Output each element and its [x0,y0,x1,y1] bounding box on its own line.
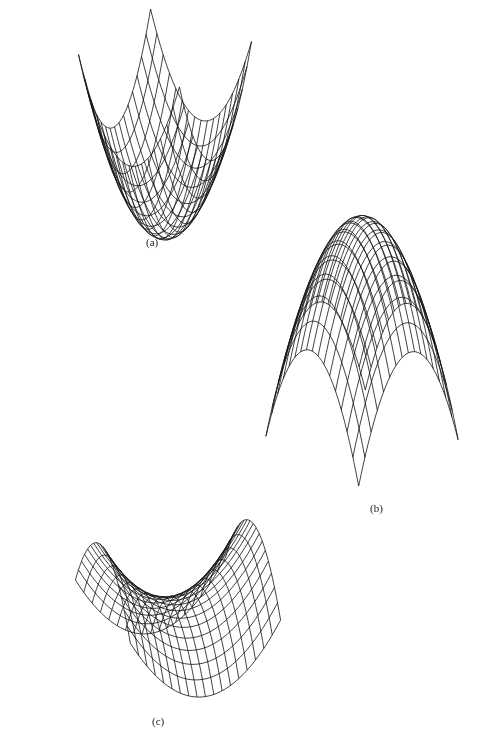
panel-b-label: (b) [370,502,383,514]
panel-c-label: (c) [152,715,164,727]
panel-a-label: (a) [146,236,158,248]
wireframe-figure-canvas [0,0,498,750]
